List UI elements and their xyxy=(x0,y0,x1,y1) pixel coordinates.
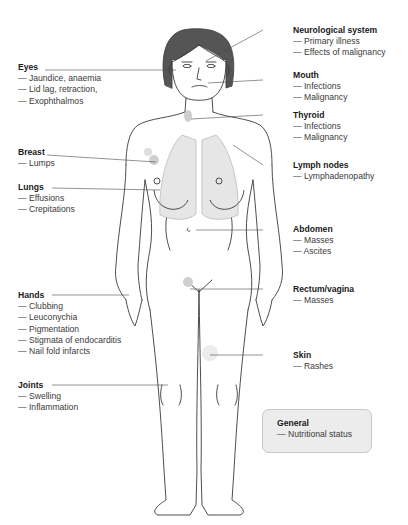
label-neurological-system: Neurological system Primary illness Effe… xyxy=(293,25,386,59)
label-eyes: Eyes Jaundice, anaemia Lid lag, retracti… xyxy=(18,62,101,107)
label-breast: Breast Lumps xyxy=(18,147,55,169)
label-lungs: Lungs Effusions Crepitations xyxy=(18,182,75,216)
thyroid-spot xyxy=(184,110,192,122)
label-abdomen: Abdomen Masses Ascites xyxy=(293,224,334,258)
label-hands: Hands Clubbing Leuconychia Pigmentation … xyxy=(18,290,121,357)
label-lymph-nodes: Lymph nodes Lymphadenopathy xyxy=(293,160,374,182)
skin-rash-spot xyxy=(202,345,218,361)
label-general: General Nutritional status xyxy=(277,418,352,440)
label-mouth: Mouth Infections Malignancy xyxy=(293,70,347,104)
label-rectum-vagina: Rectum/vagina Masses xyxy=(293,284,354,306)
label-joints: Joints Swelling Inflammation xyxy=(18,380,78,414)
lungs xyxy=(160,135,196,219)
label-thyroid: Thyroid Infections Malignancy xyxy=(293,110,347,144)
pubic-spot xyxy=(183,277,193,287)
face xyxy=(172,60,226,100)
label-skin: Skin Rashes xyxy=(293,350,333,372)
